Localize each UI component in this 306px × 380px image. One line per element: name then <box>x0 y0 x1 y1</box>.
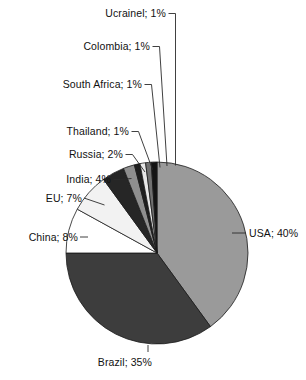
label-colombia: Colombia; 1% <box>0 40 150 52</box>
label-ucrainel: Ucrainel; 1% <box>0 7 166 19</box>
label-russia: Russia; 2% <box>0 148 123 160</box>
label-south-africa: South Africa; 1% <box>0 78 142 90</box>
leader-line-ucrainel <box>169 14 176 166</box>
label-usa: USA; 40% <box>249 227 306 239</box>
pie-chart: Ucrainel; 1% Colombia; 1% South Africa; … <box>0 0 306 380</box>
pie-chart-canvas <box>0 0 306 380</box>
leader-line-colombia <box>153 47 168 167</box>
pie-slice-group <box>66 162 248 344</box>
label-brazil: Brazil; 35% <box>0 356 152 368</box>
label-eu: EU; 7% <box>0 192 82 204</box>
label-thailand: Thailand; 1% <box>0 125 129 137</box>
label-china: China; 8% <box>0 231 78 243</box>
label-india: India; 4% <box>0 173 111 185</box>
